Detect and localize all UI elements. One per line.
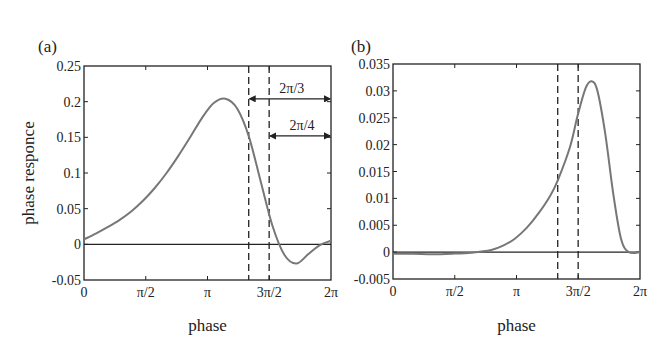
- x-tick-label: 3π/2: [566, 284, 591, 299]
- y-tick-label: -0.005: [354, 272, 390, 287]
- x-tick-label: π: [513, 284, 520, 299]
- x-tick-label: 0: [81, 285, 88, 300]
- y-tick-label: 0.15: [57, 130, 82, 145]
- figure: (a)0π/2π3π/22π0.250.20.150.10.050-0.052π…: [0, 0, 666, 353]
- x-tick-label: 3π/2: [257, 285, 282, 300]
- y-tick-label: 0.015: [359, 165, 391, 180]
- y-axis-title: phase responce: [19, 121, 38, 224]
- y-tick-label: 0.025: [359, 111, 391, 126]
- y-tick-label: 0: [74, 237, 81, 252]
- y-tick-label: 0.035: [359, 57, 391, 72]
- y-tick-label: 0.1: [64, 166, 82, 181]
- x-tick-label: π: [204, 285, 211, 300]
- x-tick-label: π/2: [137, 285, 155, 300]
- plot-frame: [84, 66, 331, 280]
- panel-label: (a): [38, 37, 57, 56]
- panel-label: (b): [351, 37, 371, 56]
- x-tick-label: π/2: [446, 284, 464, 299]
- x-tick-label: 0: [390, 284, 397, 299]
- y-tick-label: 0.2: [64, 95, 82, 110]
- x-tick-label: 2π: [633, 284, 647, 299]
- interval-label: 2π/3: [279, 81, 304, 96]
- plot-frame: [393, 64, 640, 279]
- y-tick-label: 0.01: [366, 191, 391, 206]
- y-tick-label: 0.02: [366, 138, 391, 153]
- x-tick-label: 2π: [324, 285, 338, 300]
- y-tick-label: 0.03: [366, 84, 391, 99]
- panel-b: (b)0π/2π3π/22π0.0350.030.0250.020.0150.0…: [351, 37, 647, 335]
- interval-label: 2π/4: [290, 118, 315, 133]
- response-curve: [393, 81, 640, 254]
- x-axis-title: phase: [497, 316, 536, 335]
- y-tick-label: 0.25: [57, 59, 82, 74]
- panel-a: (a)0π/2π3π/22π0.250.20.150.10.050-0.052π…: [19, 37, 338, 335]
- y-tick-label: 0: [383, 245, 390, 260]
- y-tick-label: -0.05: [52, 273, 81, 288]
- y-tick-label: 0.005: [359, 218, 391, 233]
- x-axis-title: phase: [188, 316, 227, 335]
- y-tick-label: 0.05: [57, 202, 82, 217]
